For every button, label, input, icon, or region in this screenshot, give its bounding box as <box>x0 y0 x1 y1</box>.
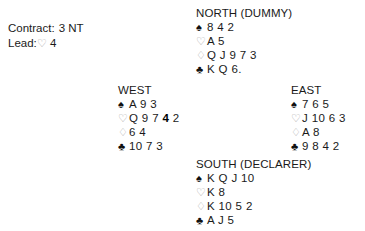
contract-value: 3 NT <box>59 22 84 34</box>
north-hearts-cards: A 5 <box>207 34 225 48</box>
lead-card-value: 4 <box>50 37 56 49</box>
hand-south: SOUTH (DECLARER) ♠ K Q J 10 ♡ K 8 ♢ K 10… <box>196 157 311 227</box>
lead-label: Lead: <box>8 37 37 49</box>
east-hearts-row: ♡ J 10 6 3 <box>291 111 346 125</box>
hand-east-label: EAST <box>291 83 346 97</box>
hand-north-label: NORTH (DUMMY) <box>196 6 292 20</box>
west-clubs-row: ♣ 10 7 3 <box>118 139 179 153</box>
spade-icon: ♠ <box>196 171 207 185</box>
diamond-icon: ♢ <box>291 125 302 139</box>
east-spades-cards: 7 6 5 <box>302 97 329 111</box>
heart-icon: ♡ <box>196 34 207 48</box>
hand-west: WEST ♠ A 9 3 ♡ Q 9 7 4 2 ♢ 6 4 ♣ 10 7 3 <box>118 83 179 153</box>
spade-icon: ♠ <box>118 97 129 111</box>
west-hearts-pre: Q 9 7 <box>129 112 162 124</box>
south-hearts-row: ♡ K 8 <box>196 185 311 199</box>
contract-info: Contract:3 NT Lead:♡ 4 <box>8 21 84 51</box>
south-spades-cards: K Q J 10 <box>207 171 255 185</box>
west-hearts-post: 2 <box>169 112 179 124</box>
north-diamonds-cards: Q J 9 7 3 <box>207 48 257 62</box>
club-icon: ♣ <box>196 213 207 227</box>
club-icon: ♣ <box>118 139 129 153</box>
west-hearts-row: ♡ Q 9 7 4 2 <box>118 111 179 125</box>
club-icon: ♣ <box>196 62 207 76</box>
diamond-icon: ♢ <box>196 199 207 213</box>
north-clubs-cards: K Q 6. <box>207 62 242 76</box>
west-spades-row: ♠ A 9 3 <box>118 97 179 111</box>
heart-icon: ♡ <box>196 185 207 199</box>
west-hearts-cards: Q 9 7 4 2 <box>129 111 179 125</box>
hand-south-label: SOUTH (DECLARER) <box>196 157 311 171</box>
east-diamonds-cards: A 8 <box>302 125 320 139</box>
contract-line: Contract:3 NT <box>8 21 84 36</box>
west-diamonds-cards: 6 4 <box>129 125 146 139</box>
north-spades-row: ♠ 8 4 2 <box>196 20 292 34</box>
north-clubs-row: ♣ K Q 6. <box>196 62 292 76</box>
heart-icon: ♡ <box>118 111 129 125</box>
club-icon: ♣ <box>291 139 302 153</box>
south-hearts-cards: K 8 <box>207 185 225 199</box>
east-diamonds-row: ♢ A 8 <box>291 125 346 139</box>
east-spades-row: ♠ 7 6 5 <box>291 97 346 111</box>
hand-north: NORTH (DUMMY) ♠ 8 4 2 ♡ A 5 ♢ Q J 9 7 3 … <box>196 6 292 76</box>
hand-west-label: WEST <box>118 83 179 97</box>
hand-east: EAST ♠ 7 6 5 ♡ J 10 6 3 ♢ A 8 ♣ 9 8 4 2 <box>291 83 346 153</box>
west-diamonds-row: ♢ 6 4 <box>118 125 179 139</box>
diamond-icon: ♢ <box>196 48 207 62</box>
east-hearts-cards: J 10 6 3 <box>302 111 346 125</box>
spade-icon: ♠ <box>291 97 302 111</box>
contract-label: Contract: <box>8 22 55 34</box>
east-clubs-row: ♣ 9 8 4 2 <box>291 139 346 153</box>
lead-line: Lead:♡ 4 <box>8 36 84 51</box>
north-hearts-row: ♡ A 5 <box>196 34 292 48</box>
north-spades-cards: 8 4 2 <box>207 20 234 34</box>
diamond-icon: ♢ <box>118 125 129 139</box>
east-clubs-cards: 9 8 4 2 <box>302 139 340 153</box>
west-clubs-cards: 10 7 3 <box>129 139 163 153</box>
south-clubs-cards: A J 5 <box>207 213 234 227</box>
heart-icon: ♡ <box>291 111 302 125</box>
west-spades-cards: A 9 3 <box>129 97 157 111</box>
south-spades-row: ♠ K Q J 10 <box>196 171 311 185</box>
north-diamonds-row: ♢ Q J 9 7 3 <box>196 48 292 62</box>
south-diamonds-cards: K 10 5 2 <box>207 199 253 213</box>
hearts-icon: ♡ <box>37 37 47 49</box>
south-diamonds-row: ♢ K 10 5 2 <box>196 199 311 213</box>
south-clubs-row: ♣ A J 5 <box>196 213 311 227</box>
spade-icon: ♠ <box>196 20 207 34</box>
